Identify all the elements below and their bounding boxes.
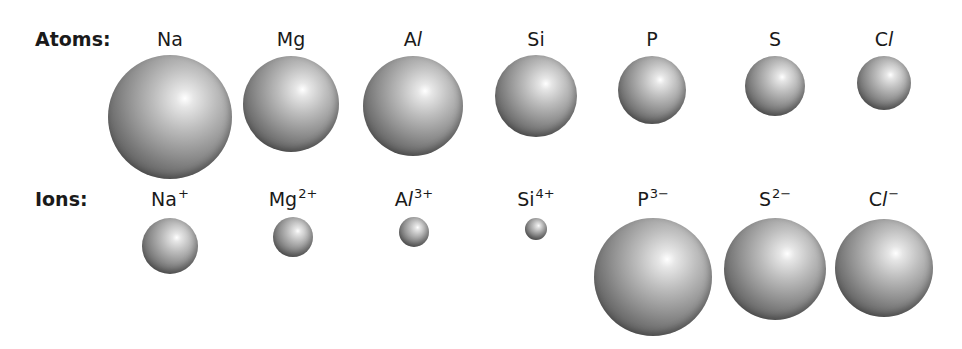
element-symbol: A xyxy=(404,28,417,50)
atoms-row-label: Atoms: xyxy=(35,30,111,49)
ion-sphere-cl xyxy=(835,219,933,317)
element-symbol-italic: l xyxy=(888,28,893,50)
ion-charge: 2− xyxy=(772,186,791,201)
atom-label-al: Al xyxy=(404,30,422,49)
atom-label-s: S xyxy=(769,30,781,49)
ion-sphere-s xyxy=(724,218,826,320)
ion-sphere-si xyxy=(525,218,547,240)
atom-sphere-cl xyxy=(857,56,911,110)
element-symbol-italic: l xyxy=(882,188,887,210)
atom-label-mg: Mg xyxy=(277,30,305,49)
element-symbol: Na xyxy=(157,28,183,50)
element-symbol: C xyxy=(869,188,882,210)
element-symbol: Na xyxy=(151,188,177,210)
element-symbol: A xyxy=(395,188,408,210)
element-symbol: Si xyxy=(517,188,534,210)
element-symbol: Si xyxy=(527,28,544,50)
element-symbol: P xyxy=(637,188,648,210)
ion-label-al: Al3+ xyxy=(395,190,433,209)
atom-label-p: P xyxy=(646,30,657,49)
ion-label-cl: Cl− xyxy=(869,190,899,209)
ion-sphere-p xyxy=(594,218,712,336)
atom-sphere-p xyxy=(618,56,686,124)
ion-charge: − xyxy=(888,186,899,201)
element-symbol: P xyxy=(646,28,657,50)
element-symbol: Mg xyxy=(269,188,297,210)
ion-sphere-na xyxy=(142,218,198,274)
atom-sphere-si xyxy=(495,55,577,137)
ion-label-s: S2− xyxy=(759,190,791,209)
atom-sphere-na xyxy=(108,55,232,179)
atom-sphere-al xyxy=(363,56,463,156)
ion-charge: 2+ xyxy=(298,186,317,201)
element-symbol: Mg xyxy=(277,28,305,50)
element-symbol: C xyxy=(875,28,888,50)
ion-charge: 4+ xyxy=(536,186,555,201)
element-symbol-italic: l xyxy=(417,28,422,50)
element-symbol-italic: l xyxy=(408,188,413,210)
ion-label-si: Si4+ xyxy=(517,190,555,209)
atom-sphere-s xyxy=(745,56,805,116)
ion-charge: + xyxy=(178,186,189,201)
ion-label-p: P3− xyxy=(637,190,669,209)
ion-charge: 3+ xyxy=(414,186,433,201)
ion-charge: 3− xyxy=(650,186,669,201)
atom-label-cl: Cl xyxy=(875,30,894,49)
ions-row-label: Ions: xyxy=(35,190,88,209)
ion-sphere-al xyxy=(399,217,429,247)
atom-label-si: Si xyxy=(527,30,544,49)
element-symbol: S xyxy=(769,28,781,50)
atom-label-na: Na xyxy=(157,30,183,49)
element-symbol: S xyxy=(759,188,771,210)
atom-sphere-mg xyxy=(243,56,339,152)
ion-label-mg: Mg2+ xyxy=(269,190,318,209)
ion-sphere-mg xyxy=(273,217,313,257)
ion-label-na: Na+ xyxy=(151,190,189,209)
